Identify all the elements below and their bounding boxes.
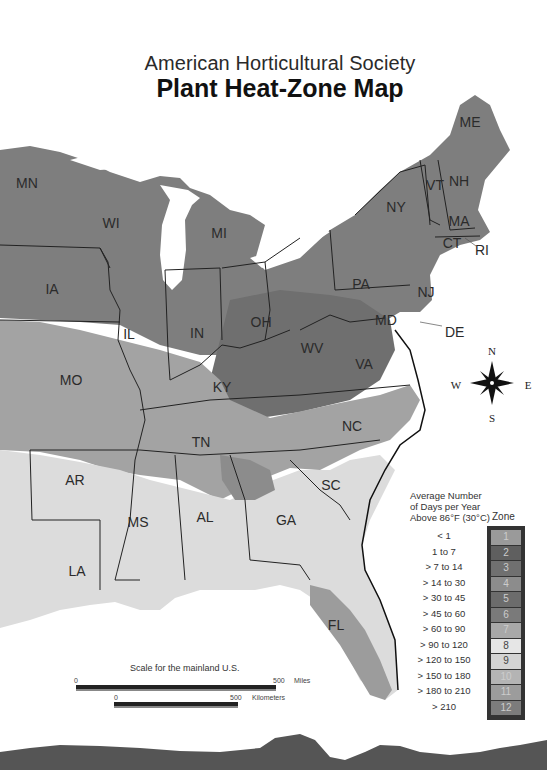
scale-km-end: 500 <box>230 694 242 701</box>
state-label-oh: OH <box>251 314 272 330</box>
compass-north: N <box>488 345 496 357</box>
legend-range-10: > 150 to 180 <box>404 670 484 681</box>
legend-zone-12: 12 <box>491 701 521 716</box>
state-label-ri: RI <box>475 242 489 258</box>
legend-zone-11: 11 <box>491 685 521 700</box>
compass-west: W <box>451 379 461 391</box>
scale-title: Scale for the mainland U.S. <box>130 663 240 673</box>
legend-zone-3: 3 <box>491 561 521 576</box>
legend-zone-2: 2 <box>491 546 521 561</box>
legend-range-4: > 14 to 30 <box>404 577 484 588</box>
legend-heading: Average Number of Days per Year Above 86… <box>410 490 490 523</box>
legend-zone-7: 7 <box>491 623 521 638</box>
state-label-ct: CT <box>443 235 462 251</box>
state-label-va: VA <box>355 356 373 372</box>
state-label-ms: MS <box>128 514 149 530</box>
state-label-nh: NH <box>449 173 469 189</box>
state-label-nj: NJ <box>417 284 434 300</box>
legend-zone-10: 10 <box>491 670 521 685</box>
legend-range-7: > 60 to 90 <box>404 623 484 634</box>
state-label-wi: WI <box>102 215 119 231</box>
legend-swatch-column: 123456789101112 <box>487 526 525 720</box>
legend-zone-6: 6 <box>491 608 521 623</box>
state-label-in: IN <box>190 325 204 341</box>
state-label-mn: MN <box>16 175 38 191</box>
legend-zone-1: 1 <box>491 530 521 545</box>
state-label-vt: VT <box>426 177 444 193</box>
state-label-ga: GA <box>276 512 296 528</box>
state-label-il: IL <box>123 326 135 342</box>
state-label-sc: SC <box>321 477 340 493</box>
legend-range-9: > 120 to 150 <box>404 654 484 665</box>
compass-south: S <box>489 412 495 424</box>
map-title: Plant Heat-Zone Map <box>140 74 420 102</box>
scale-miles-unit: Miles <box>294 677 310 684</box>
state-label-ny: NY <box>386 199 405 215</box>
legend-range-1: < 1 <box>404 530 484 541</box>
state-label-md: MD <box>375 312 397 328</box>
state-label-al: AL <box>196 509 213 525</box>
map-subtitle: American Horticultural Society <box>140 52 420 74</box>
scale-km-unit: Kilometers <box>252 694 285 701</box>
legend-zone-9: 9 <box>491 654 521 669</box>
state-label-wv: WV <box>301 340 324 356</box>
scale-miles-start: 0 <box>74 677 78 684</box>
legend-range-3: > 7 to 14 <box>404 561 484 572</box>
legend-range-11: > 180 to 210 <box>404 685 484 696</box>
scale-km-start: 0 <box>114 694 118 701</box>
map-header: American Horticultural Society Plant Hea… <box>140 52 420 102</box>
state-label-fl: FL <box>328 617 344 633</box>
legend-zone-4: 4 <box>491 577 521 592</box>
state-label-nc: NC <box>342 418 362 434</box>
scale-miles-end: 500 <box>273 677 285 684</box>
bottom-edge <box>0 734 547 770</box>
state-label-de: DE <box>445 324 464 340</box>
legend-range-12: > 210 <box>404 701 484 712</box>
state-label-mi: MI <box>211 225 227 241</box>
scale-bar-miles <box>76 685 276 691</box>
compass-rose <box>470 361 514 405</box>
state-label-la: LA <box>68 563 85 579</box>
state-label-ma: MA <box>449 213 470 229</box>
state-label-ky: KY <box>213 379 232 395</box>
state-label-ar: AR <box>65 472 84 488</box>
state-label-pa: PA <box>352 276 370 292</box>
compass-east: E <box>525 379 532 391</box>
legend-range-2: 1 to 7 <box>404 546 484 557</box>
legend-zone-8: 8 <box>491 639 521 654</box>
scale-bar-km <box>114 702 238 708</box>
legend-zone-5: 5 <box>491 592 521 607</box>
legend-range-5: > 30 to 45 <box>404 592 484 603</box>
state-label-tn: TN <box>192 434 211 450</box>
state-label-mo: MO <box>60 372 83 388</box>
state-label-me: ME <box>460 114 481 130</box>
legend-range-8: > 90 to 120 <box>404 639 484 650</box>
legend-range-6: > 45 to 60 <box>404 608 484 619</box>
legend-zone-heading: Zone <box>492 511 515 522</box>
state-label-ia: IA <box>45 281 58 297</box>
